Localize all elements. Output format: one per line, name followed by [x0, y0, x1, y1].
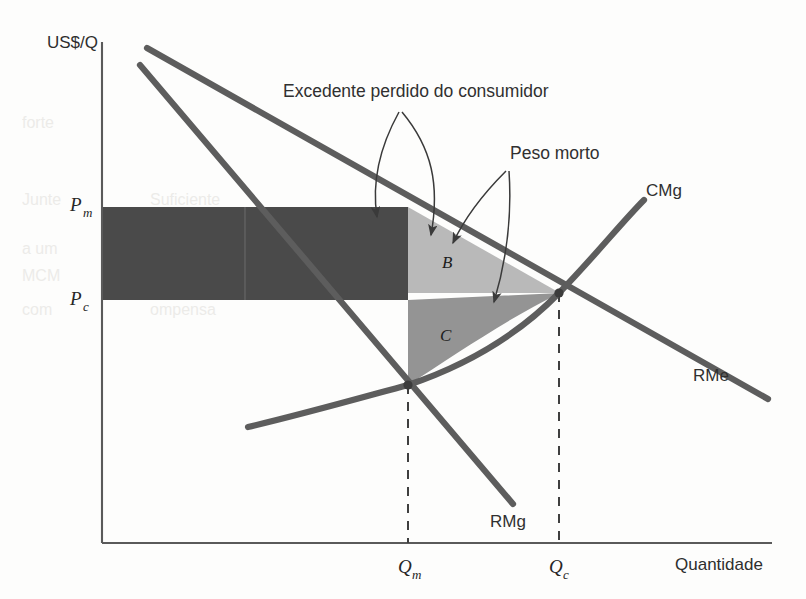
region-label-c: C: [440, 326, 452, 345]
svg-text:c: c: [563, 567, 569, 582]
region-a-rect: [102, 207, 408, 300]
consumer-surplus-arrow-to-a: [375, 112, 399, 217]
svg-text:MCM: MCM: [22, 267, 60, 284]
y-axis-label: US$/Q: [47, 33, 98, 52]
y-tick-pc: P c: [69, 288, 89, 314]
x-axis-label: Quantidade: [675, 555, 763, 574]
svg-text:Q: Q: [549, 556, 563, 577]
curve-label-cmg: CMg: [646, 181, 682, 200]
curve-label-rme: RMe: [693, 366, 729, 385]
svg-text:P: P: [69, 288, 82, 309]
callout-consumer-surplus-loss: Excedente perdido do consumidor: [283, 81, 549, 101]
diagram-canvas: forte Junte a um MCM com Suficiente que …: [0, 0, 806, 599]
monopoly-intersection-marker: [403, 380, 412, 389]
deadweight-arrow-to-b: [453, 171, 506, 243]
region-label-b: B: [442, 253, 453, 272]
svg-text:m: m: [412, 567, 421, 582]
svg-text:c: c: [83, 299, 89, 314]
x-tick-qm: Q m: [398, 556, 421, 582]
svg-text:m: m: [83, 205, 92, 220]
svg-text:a um: a um: [22, 240, 58, 257]
svg-text:Junte: Junte: [22, 191, 61, 208]
svg-text:P: P: [69, 194, 82, 215]
svg-text:Q: Q: [398, 556, 412, 577]
svg-text:ompensa: ompensa: [150, 301, 216, 318]
region-c-triangle: [408, 293, 560, 385]
x-tick-qc: Q c: [549, 556, 569, 582]
svg-text:forte: forte: [22, 114, 54, 131]
economics-diagram-figure: forte Junte a um MCM com Suficiente que …: [0, 0, 806, 599]
region-b-triangle: [405, 204, 565, 304]
callout-deadweight-loss: Peso morto: [510, 143, 599, 163]
competitive-intersection-marker: [554, 288, 563, 297]
y-tick-pm: P m: [69, 194, 92, 220]
svg-text:com: com: [22, 301, 52, 318]
curve-label-rmg: RMg: [490, 512, 526, 531]
svg-text:Suficiente: Suficiente: [150, 191, 220, 208]
